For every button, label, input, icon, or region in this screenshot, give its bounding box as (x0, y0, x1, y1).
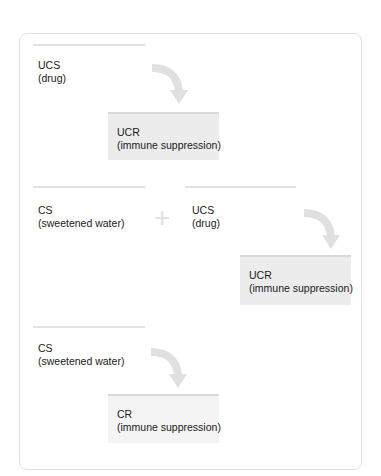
ucr-label: UCR (immune suppression) (249, 269, 353, 294)
divider-rule (33, 326, 145, 328)
divider-rule (185, 186, 296, 188)
cr-label: CR (immune suppression) (117, 408, 221, 433)
plus-icon: + (154, 204, 170, 232)
cr-box: CR (immune suppression) (108, 394, 219, 443)
description: (immune suppression) (249, 282, 353, 295)
description: (immune suppression) (117, 139, 221, 152)
ucs-drug-label: UCS (drug) (38, 59, 66, 84)
description: (immune suppression) (117, 421, 221, 434)
ucr-label: UCR (immune suppression) (117, 126, 221, 151)
term: CS (38, 204, 124, 217)
divider-rule (33, 44, 145, 46)
description: (drug) (192, 217, 220, 230)
description: (sweetened water) (38, 355, 124, 368)
ucs-drug-label: UCS (drug) (192, 204, 220, 229)
divider-rule (33, 186, 145, 188)
term: CR (117, 408, 221, 421)
curved-arrow-icon (302, 209, 342, 251)
ucr-box: UCR (immune suppression) (108, 112, 219, 160)
ucr-box: UCR (immune suppression) (240, 255, 351, 305)
term: UCR (117, 126, 221, 139)
curved-arrow-icon (150, 64, 190, 106)
term: UCR (249, 269, 353, 282)
term: UCS (192, 204, 220, 217)
term: CS (38, 342, 124, 355)
description: (sweetened water) (38, 217, 124, 230)
cs-sweetened-water-label: CS (sweetened water) (38, 342, 124, 367)
curved-arrow-icon (149, 348, 189, 390)
description: (drug) (38, 72, 66, 85)
term: UCS (38, 59, 66, 72)
cs-sweetened-water-label: CS (sweetened water) (38, 204, 124, 229)
